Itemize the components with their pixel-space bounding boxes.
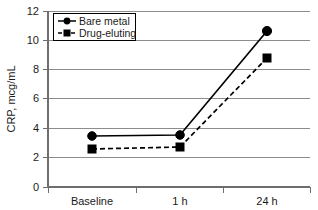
y-tick-marks xyxy=(43,11,48,187)
y-tick-labels: 12 10 8 6 4 2 0 xyxy=(27,5,39,193)
y-tick-label-0: 0 xyxy=(33,181,39,193)
line-chart: 12 10 8 6 4 2 0 CRP, mcg/mL Baseline 1 h… xyxy=(0,0,318,210)
legend-marker-circle-icon xyxy=(64,18,71,25)
y-tick-label-6: 6 xyxy=(33,92,39,104)
y-tick-label-8: 8 xyxy=(33,63,39,75)
x-tick-label-baseline: Baseline xyxy=(71,195,113,207)
y-tick-label-12: 12 xyxy=(27,5,39,17)
chart-figure: 12 10 8 6 4 2 0 CRP, mcg/mL Baseline 1 h… xyxy=(0,0,318,210)
data-point-bare-metal-1h xyxy=(176,131,185,140)
y-tick-label-4: 4 xyxy=(33,122,39,134)
chart-legend: Bare metal Drug-eluting xyxy=(54,14,137,41)
y-axis-title: CRP, mcg/mL xyxy=(5,65,17,132)
x-tick-marks xyxy=(48,187,310,193)
data-point-drug-eluting-1h xyxy=(176,143,184,151)
data-point-bare-metal-baseline xyxy=(88,132,97,141)
data-point-bare-metal-24h xyxy=(262,26,271,35)
x-tick-label-24h: 24 h xyxy=(256,195,277,207)
x-tick-labels: Baseline 1 h 24 h xyxy=(71,195,278,207)
x-tick-label-1h: 1 h xyxy=(172,195,187,207)
y-tick-label-10: 10 xyxy=(27,34,39,46)
legend-label-bare-metal: Bare metal xyxy=(79,15,130,27)
legend-marker-square-icon xyxy=(64,30,71,37)
data-point-drug-eluting-baseline xyxy=(88,145,96,153)
data-point-drug-eluting-24h xyxy=(263,54,271,62)
y-tick-label-2: 2 xyxy=(33,151,39,163)
legend-label-drug-eluting: Drug-eluting xyxy=(79,27,136,39)
